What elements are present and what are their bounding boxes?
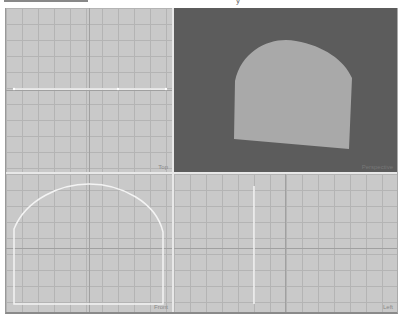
viewport-layout: Top Perspective Front Left [5,8,398,314]
viewport-divider-horizontal[interactable] [6,172,397,174]
viewport-front[interactable]: Front [6,174,172,312]
viewport-divider-vertical[interactable] [172,8,174,312]
viewport-top[interactable]: Top [6,8,172,172]
viewport-perspective[interactable]: Perspective [174,8,397,172]
viewport-label: Left [383,304,393,310]
arch-spline[interactable] [6,174,172,312]
spline-shape[interactable] [174,174,397,312]
viewport-label: Perspective [362,164,393,170]
caption-underline [4,0,88,2]
viewport-left[interactable]: Left [174,174,397,312]
viewport-label: Front [154,304,168,310]
viewport-label: Top [158,164,168,170]
spline-shape[interactable] [6,8,172,172]
extruded-arch-mesh[interactable] [174,8,397,172]
caption-fragment: y [236,0,240,5]
